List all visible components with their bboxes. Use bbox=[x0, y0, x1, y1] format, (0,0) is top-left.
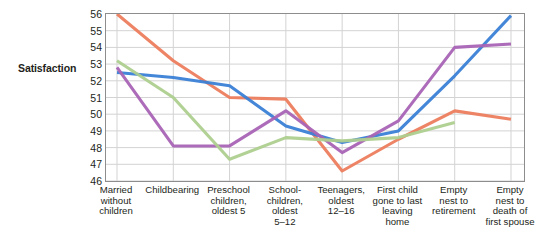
x-tick-label-line: Empty bbox=[476, 185, 543, 196]
x-tick-label-line: Preschool bbox=[198, 185, 260, 196]
y-tick-label: 50 bbox=[76, 109, 102, 119]
y-tick-label: 49 bbox=[76, 126, 102, 136]
x-tick-label-line: home bbox=[362, 217, 432, 228]
plot-svg bbox=[106, 14, 524, 181]
y-tick-label: 56 bbox=[76, 9, 102, 19]
y-tick-label: 52 bbox=[76, 76, 102, 86]
x-tick-label: School-children,oldest5–12 bbox=[254, 185, 316, 227]
x-tick-label-line: first spouse bbox=[476, 217, 543, 228]
y-tick-label: 48 bbox=[76, 143, 102, 153]
x-tick-label-line: School- bbox=[254, 185, 316, 196]
y-tick-label: 54 bbox=[76, 42, 102, 52]
y-tick-label: 55 bbox=[76, 26, 102, 36]
y-tick-label: 47 bbox=[76, 159, 102, 169]
x-axis-tick-labels: MarriedwithoutchildrenChildbearingPresch… bbox=[105, 185, 525, 236]
x-tick-label-line: 5–12 bbox=[254, 217, 316, 228]
plot-area bbox=[105, 13, 525, 182]
x-tick-label-line: children bbox=[85, 206, 147, 217]
y-tick-label: 51 bbox=[76, 93, 102, 103]
x-tick-label: Preschoolchildren,oldest 5 bbox=[198, 185, 260, 217]
line-chart: Satisfaction 5655545352515049484746 Marr… bbox=[0, 0, 543, 236]
y-tick-label: 53 bbox=[76, 59, 102, 69]
x-tick-label: Emptynest todeath offirst spouse bbox=[476, 185, 543, 227]
x-tick-label-line: oldest 5 bbox=[198, 206, 260, 217]
